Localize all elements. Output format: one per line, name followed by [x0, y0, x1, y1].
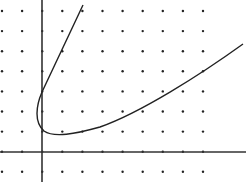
grid-dot — [162, 171, 164, 173]
grid-dot — [162, 90, 164, 92]
grid-dot — [61, 171, 63, 173]
grid-dot — [121, 10, 123, 12]
grid-dot — [21, 110, 23, 112]
grid-dot — [142, 70, 144, 72]
grid-dot — [182, 70, 184, 72]
grid-dot — [81, 90, 83, 92]
grid-dot — [202, 130, 204, 132]
grid-dot — [101, 50, 103, 52]
grid-dot — [1, 110, 3, 112]
grid-dot — [182, 50, 184, 52]
grid-dot — [61, 70, 63, 72]
grid-dot — [61, 30, 63, 32]
grid-dot — [21, 10, 23, 12]
grid-dot — [142, 171, 144, 173]
dot-grid — [1, 10, 204, 173]
grid-dot — [61, 110, 63, 112]
grid-dot — [101, 10, 103, 12]
grid-dot — [182, 10, 184, 12]
grid-dot — [162, 10, 164, 12]
grid-dot — [21, 130, 23, 132]
grid-dot — [182, 90, 184, 92]
grid-dot — [81, 110, 83, 112]
grid-dot — [162, 50, 164, 52]
graph-canvas — [0, 0, 251, 196]
grid-dot — [162, 110, 164, 112]
grid-dot — [1, 90, 3, 92]
grid-dot — [81, 70, 83, 72]
grid-dot — [101, 70, 103, 72]
grid-dot — [21, 50, 23, 52]
grid-dot — [1, 10, 3, 12]
grid-dot — [182, 130, 184, 132]
grid-dot — [21, 90, 23, 92]
grid-dot — [61, 10, 63, 12]
grid-dot — [202, 171, 204, 173]
grid-dot — [121, 30, 123, 32]
grid-dot — [142, 130, 144, 132]
grid-dot — [1, 70, 3, 72]
grid-dot — [142, 30, 144, 32]
grid-dot — [101, 30, 103, 32]
grid-dot — [81, 30, 83, 32]
grid-dot — [21, 171, 23, 173]
grid-dot — [1, 130, 3, 132]
grid-dot — [142, 90, 144, 92]
grid-dot — [101, 90, 103, 92]
grid-dot — [1, 171, 3, 173]
grid-dot — [202, 10, 204, 12]
grid-dot — [182, 110, 184, 112]
grid-dot — [162, 70, 164, 72]
grid-dot — [121, 130, 123, 132]
grid-dot — [1, 50, 3, 52]
grid-dot — [101, 130, 103, 132]
grid-dot — [202, 110, 204, 112]
grid-dot — [162, 30, 164, 32]
grid-dot — [121, 110, 123, 112]
grid-dot — [101, 110, 103, 112]
grid-dot — [121, 70, 123, 72]
grid-dot — [81, 10, 83, 12]
grid-dot — [182, 30, 184, 32]
grid-dot — [101, 171, 103, 173]
grid-dot — [1, 30, 3, 32]
grid-dot — [182, 171, 184, 173]
grid-dot — [121, 90, 123, 92]
grid-dot — [121, 171, 123, 173]
grid-dot — [21, 30, 23, 32]
grid-dot — [21, 70, 23, 72]
grid-dot — [81, 171, 83, 173]
grid-dot — [142, 50, 144, 52]
curve — [37, 5, 243, 135]
grid-dot — [142, 110, 144, 112]
grid-dot — [61, 90, 63, 92]
grid-dot — [202, 30, 204, 32]
grid-dot — [142, 10, 144, 12]
grid-dot — [61, 130, 63, 132]
grid-dot — [81, 50, 83, 52]
grid-dot — [162, 130, 164, 132]
grid-dot — [202, 90, 204, 92]
grid-dot — [121, 50, 123, 52]
grid-dot — [202, 50, 204, 52]
